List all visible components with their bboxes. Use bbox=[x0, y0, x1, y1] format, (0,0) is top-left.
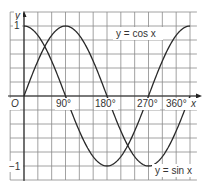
x-axis-label: x bbox=[190, 98, 197, 109]
y-tick-1: 1 bbox=[14, 20, 20, 31]
x-tick-180: 180° bbox=[95, 98, 116, 109]
x-tick-270: 270° bbox=[137, 98, 158, 109]
sin-curve-label: y = sin x bbox=[155, 165, 192, 176]
origin-label: O bbox=[11, 98, 19, 109]
sin-cos-chart: y = cos x y = sin x y x O 90° 180° 270° … bbox=[0, 0, 205, 188]
x-axis-arrow-icon bbox=[196, 94, 202, 99]
y-tick-minus-1: −1 bbox=[9, 161, 21, 172]
x-tick-360: 360° bbox=[166, 98, 187, 109]
cos-curve-label: y = cos x bbox=[116, 28, 156, 39]
x-tick-90: 90° bbox=[56, 98, 71, 109]
